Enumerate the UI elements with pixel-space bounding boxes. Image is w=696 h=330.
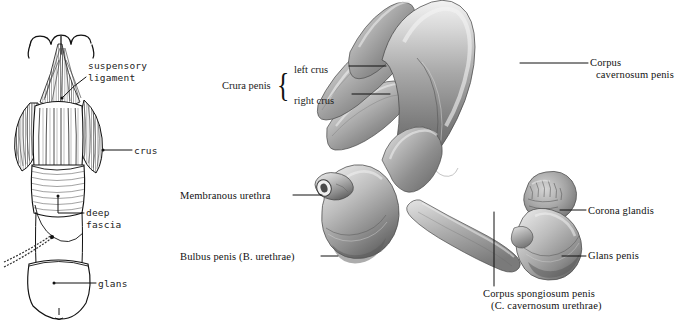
suspensory-ligament-fan [40,44,81,108]
label-right-crus: right crus [294,95,334,106]
label-glans: glans [98,278,128,290]
label-glans-penis: Glans penis [588,250,639,262]
penis-shaft-outline [36,212,83,264]
label-suspensory-ligament: suspensory ligament [88,60,147,83]
crura-penis-group-name: Crura penis [222,80,271,91]
label-corpus-cavernosum-penis: Corpus cavernosum penis [590,57,674,80]
label-crura-penis-group: Crura penis { left crus right crus [222,64,334,106]
deep-fascia-sleeve [30,165,86,217]
corpus-spongiosum-group [315,127,582,280]
glans-shape [28,260,90,320]
figure-right-engraving [232,0,696,330]
crura-penis-items: left crus right crus [294,64,334,106]
curly-brace-icon: { [277,71,289,99]
label-left-crus: left crus [294,64,334,75]
label-bulbus-penis: Bulbus penis (B. urethrae) [180,251,295,263]
label-corona-glandis: Corona glandis [588,205,654,217]
right-figure-artwork [232,0,696,330]
spongiosum-neck [382,127,442,192]
corpora-cavernosa-body [33,102,83,169]
corpus-spongiosum-tube [407,200,521,272]
label-deep-fascia: deep fascia [86,207,122,230]
label-crus: crus [134,145,158,157]
label-membranous-urethra: Membranous urethra [180,190,270,202]
label-corpus-spongiosum-penis: Corpus spongiosum penis (C. cavernosum u… [483,288,602,311]
